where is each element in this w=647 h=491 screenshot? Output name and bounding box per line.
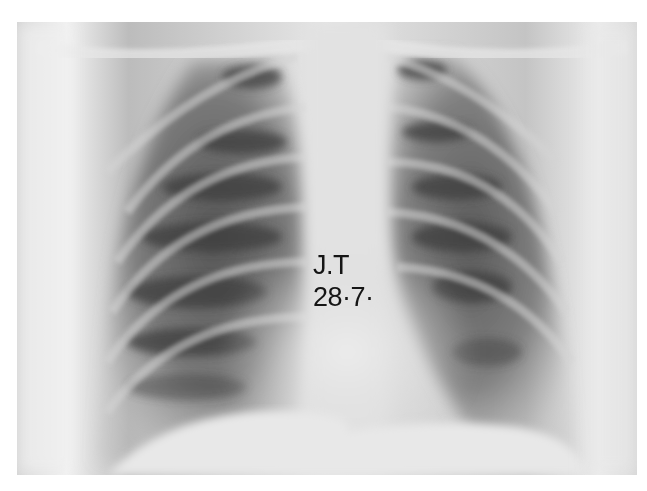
radiograph-graphic: [17, 22, 637, 475]
patient-initials-label: J.T: [313, 252, 349, 279]
chest-xray-image: J.T 28·7·: [17, 22, 637, 475]
exam-date-label: 28·7·: [313, 284, 374, 311]
